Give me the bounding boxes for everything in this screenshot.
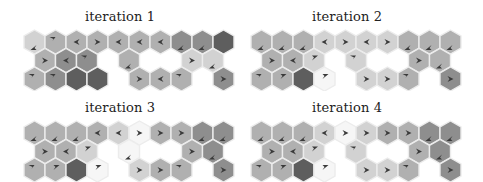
hex-cell [150, 67, 171, 91]
hex-cell [293, 158, 314, 182]
hex-cell [150, 30, 171, 54]
hex-cell [66, 158, 87, 182]
hex-cell [45, 67, 66, 91]
panel-iteration-1: iteration 1 [0, 0, 240, 91]
panel-iteration-4: iteration 4 [227, 91, 467, 182]
hex-cell [377, 67, 398, 91]
hex-grid [0, 91, 240, 182]
hex-cell [377, 30, 398, 54]
hex-cell [440, 158, 461, 182]
hex-cell [45, 158, 66, 182]
hex-cell [24, 158, 45, 182]
hex-cell [251, 158, 272, 182]
hex-cell [66, 67, 87, 91]
hex-cell [314, 67, 335, 91]
hex-cell [87, 67, 108, 91]
hex-cell [171, 67, 192, 91]
hex-cell [377, 121, 398, 145]
hex-cell [171, 158, 192, 182]
hex-cell [272, 158, 293, 182]
hex-grid [227, 0, 467, 91]
hex-cell [398, 158, 419, 182]
hex-grid [227, 91, 467, 182]
hex-cell [129, 67, 150, 91]
hex-cell [293, 67, 314, 91]
hex-cell [150, 121, 171, 145]
hex-cell [129, 158, 150, 182]
hex-cell [272, 67, 293, 91]
hex-cell [377, 158, 398, 182]
panel-iteration-3: iteration 3 [0, 91, 240, 182]
hex-cell [251, 67, 272, 91]
hex-grid [0, 0, 240, 91]
hex-cell [356, 158, 377, 182]
hex-cell [314, 158, 335, 182]
hex-cell [440, 67, 461, 91]
hex-cell [24, 67, 45, 91]
hex-cell [356, 67, 377, 91]
hex-cell [398, 67, 419, 91]
panel-iteration-2: iteration 2 [227, 0, 467, 91]
hex-cell [87, 158, 108, 182]
hex-cell [150, 158, 171, 182]
